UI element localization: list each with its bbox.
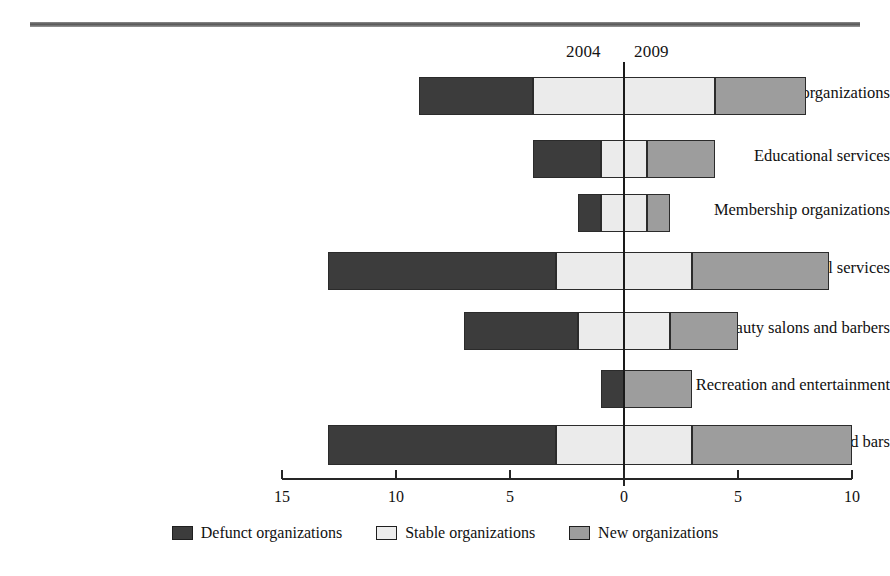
bar-segment-2-defunct <box>578 194 601 232</box>
x-axis-tick-5 <box>509 470 511 479</box>
bar-segment-3-stable <box>556 252 624 290</box>
x-axis-tick-10 <box>395 470 397 479</box>
legend-item-new[interactable]: New organizations <box>569 524 718 542</box>
legend-item-stable[interactable]: Stable organizations <box>376 524 535 542</box>
legend-swatch-defunct-icon <box>172 526 193 540</box>
bar-segment-4-defunct <box>464 312 578 350</box>
x-axis-tick-label-2: 5 <box>490 488 530 506</box>
chart-figure: 2004 2009 Religious organizations Educat… <box>0 0 890 576</box>
bar-segment-0-newo <box>715 77 806 115</box>
bar-segment-6-defunct <box>328 425 556 465</box>
x-axis-line <box>282 478 852 480</box>
legend-label-defunct: Defunct organizations <box>201 524 342 542</box>
zero-axis-line <box>623 62 625 478</box>
bar-segment-4-stable <box>624 312 670 350</box>
bar-segment-5-defunct <box>601 370 624 408</box>
legend-label-stable: Stable organizations <box>405 524 535 542</box>
x-axis-tick-label-1: 10 <box>376 488 416 506</box>
x-axis-tick-0 <box>623 470 625 486</box>
bar-segment-6-stable <box>556 425 624 465</box>
legend-swatch-stable-icon <box>376 526 397 540</box>
x-axis-tick-10 <box>851 470 853 479</box>
bar-segment-1-stable <box>601 140 624 178</box>
bar-segment-0-stable <box>533 77 624 115</box>
bar-segment-1-defunct <box>533 140 601 178</box>
bar-segment-3-newo <box>692 252 829 290</box>
chart-legend: Defunct organizationsStable organization… <box>0 524 890 542</box>
bar-segment-5-newo <box>624 370 692 408</box>
x-axis-tick-15 <box>281 470 283 479</box>
bar-segment-3-stable <box>624 252 692 290</box>
x-axis-tick-label-4: 5 <box>718 488 758 506</box>
x-axis-tick-label-5: 10 <box>832 488 872 506</box>
bar-segment-4-newo <box>670 312 738 350</box>
bar-segment-0-defunct <box>419 77 533 115</box>
legend-item-defunct[interactable]: Defunct organizations <box>172 524 342 542</box>
bar-segment-6-stable <box>624 425 692 465</box>
legend-label-new: New organizations <box>598 524 718 542</box>
bar-segment-3-defunct <box>328 252 556 290</box>
legend-swatch-new-icon <box>569 526 590 540</box>
bar-segment-1-stable <box>624 140 647 178</box>
x-axis-tick-label-0: 15 <box>262 488 302 506</box>
x-axis-tick-label-3: 0 <box>604 488 644 506</box>
bar-segment-2-stable <box>624 194 647 232</box>
bar-segment-2-newo <box>647 194 670 232</box>
bar-segment-1-newo <box>647 140 715 178</box>
bar-segment-0-stable <box>624 77 715 115</box>
x-axis-tick-5 <box>737 470 739 479</box>
bar-segment-6-newo <box>692 425 852 465</box>
bar-segment-4-stable <box>578 312 624 350</box>
bar-segment-2-stable <box>601 194 624 232</box>
